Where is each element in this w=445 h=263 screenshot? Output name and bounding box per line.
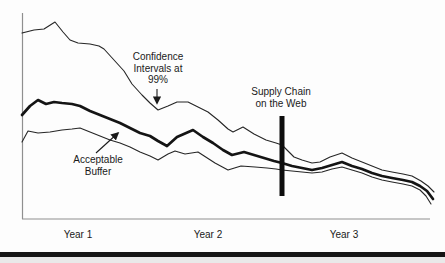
x-tick-year-2: Year 2 xyxy=(178,229,238,240)
forecast-line xyxy=(22,100,433,199)
x-tick-year-1: Year 1 xyxy=(48,229,108,240)
page-edge-strip xyxy=(0,257,445,263)
chart-canvas xyxy=(0,0,445,263)
figure-container: Confidence Intervals at 99% Supply Chain… xyxy=(0,0,445,263)
acceptable-buffer-label: Acceptable Buffer xyxy=(53,154,143,177)
supply-chain-label: Supply Chain on the Web xyxy=(236,86,326,109)
x-tick-year-3: Year 3 xyxy=(314,229,374,240)
confidence-intervals-label: Confidence Intervals at 99% xyxy=(113,51,203,86)
